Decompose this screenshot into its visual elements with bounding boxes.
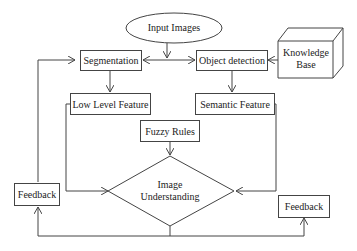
knowledge-base-line1: Knowledge <box>280 47 332 59</box>
low-level-feature-box: Low Level Feature <box>70 93 151 115</box>
knowledge-base-line2: Base <box>280 59 332 71</box>
image-understanding-label: Image Understanding <box>130 179 210 203</box>
feedback-right-box: Feedback <box>278 195 330 218</box>
feedback-left-box: Feedback <box>14 183 60 206</box>
semantic-feature-box: Semantic Feature <box>195 93 275 115</box>
input-images-label: Input Images <box>130 22 218 34</box>
segmentation-box: Segmentation <box>80 50 142 71</box>
object-detection-box: Object detection <box>196 50 268 71</box>
fuzzy-rules-box: Fuzzy Rules <box>140 120 200 142</box>
understanding-line1: Image <box>130 179 210 191</box>
understanding-line2: Understanding <box>130 191 210 203</box>
knowledge-base-label: Knowledge Base <box>280 47 332 71</box>
